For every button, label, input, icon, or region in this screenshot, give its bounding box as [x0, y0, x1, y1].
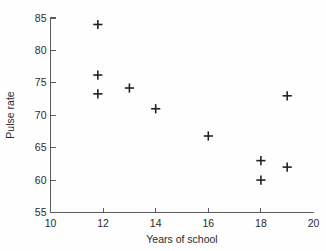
data-point	[93, 70, 102, 79]
x-tick-marks	[103, 208, 261, 213]
x-tick-label-10: 10	[45, 217, 57, 229]
x-tick-label-12: 12	[97, 217, 109, 229]
data-point	[283, 91, 292, 100]
y-tick-label-75: 75	[35, 76, 47, 88]
data-point	[151, 104, 160, 113]
data-point	[204, 131, 213, 140]
y-tick-labels: 55606570758085	[35, 12, 47, 219]
x-axis-group: 101214161820 Years of school	[45, 208, 320, 246]
x-axis-title: Years of school	[146, 233, 217, 245]
x-tick-label-18: 18	[255, 217, 267, 229]
data-point	[283, 163, 292, 172]
y-tick-label-60: 60	[35, 174, 47, 186]
x-tick-labels: 101214161820	[45, 217, 320, 229]
x-tick-label-16: 16	[202, 217, 214, 229]
y-axis-title: Pulse rate	[4, 91, 16, 138]
y-tick-label-80: 80	[35, 44, 47, 56]
data-point	[256, 156, 265, 165]
x-tick-label-20: 20	[308, 217, 320, 229]
y-tick-label-85: 85	[35, 12, 47, 24]
x-tick-label-14: 14	[150, 217, 162, 229]
y-tick-label-70: 70	[35, 109, 47, 121]
y-tick-marks	[51, 18, 56, 213]
data-point-markers	[93, 20, 292, 185]
data-point	[125, 83, 134, 92]
scatter-plot-figure: 55606570758085 Pulse rate 101214161820 Y…	[0, 0, 326, 251]
y-axis-group: 55606570758085 Pulse rate	[4, 12, 56, 219]
plot-canvas: 55606570758085 Pulse rate 101214161820 Y…	[0, 0, 326, 251]
data-point	[93, 20, 102, 29]
data-point	[256, 175, 265, 184]
y-tick-label-65: 65	[35, 141, 47, 153]
data-point	[93, 89, 102, 98]
